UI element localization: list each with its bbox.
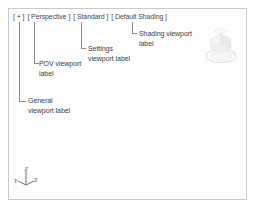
axis-tripod: Z X Y (14, 166, 40, 192)
annotation-shading: Shading viewport label (139, 29, 192, 49)
annotation-settings-line2: viewport label (88, 54, 130, 64)
annotation-general: General viewport label (28, 96, 70, 116)
annotation-shading-line2: label (139, 39, 192, 49)
viewport-label-row: [ + ][ Perspective ][ Standard ][ Defaul… (13, 12, 167, 21)
annotation-pov-line2: label (39, 69, 81, 79)
annotation-pov-line1: POV viewport (39, 60, 81, 67)
svg-text:Z: Z (25, 166, 29, 172)
annotation-shading-line1: Shading viewport (139, 30, 192, 37)
view-cube[interactable] (200, 27, 242, 67)
annotation-settings-line1: Settings (88, 45, 113, 52)
leader-line-general-hook (19, 101, 26, 102)
leader-line-settings-hook (81, 48, 86, 49)
leader-line-settings-vertical (81, 22, 82, 49)
general-viewport-label[interactable]: [ + ] (13, 12, 24, 21)
annotation-pov: POV viewport label (39, 59, 81, 79)
svg-text:Y: Y (14, 178, 18, 184)
leader-line-general-vertical (19, 22, 20, 102)
annotation-general-line1: General (28, 97, 53, 104)
shading-viewport-label[interactable]: [ Default Shading ] (111, 12, 167, 21)
leader-line-pov-vertical (34, 22, 35, 64)
settings-viewport-label[interactable]: [ Standard ] (73, 12, 108, 21)
screenshot-root: [ + ][ Perspective ][ Standard ][ Defaul… (0, 0, 257, 209)
annotation-settings: Settings viewport label (88, 44, 130, 64)
leader-line-shading-hook (132, 33, 137, 34)
svg-text:X: X (33, 177, 38, 183)
pov-viewport-label[interactable]: [ Perspective ] (27, 12, 70, 21)
annotation-general-line2: viewport label (28, 106, 70, 116)
